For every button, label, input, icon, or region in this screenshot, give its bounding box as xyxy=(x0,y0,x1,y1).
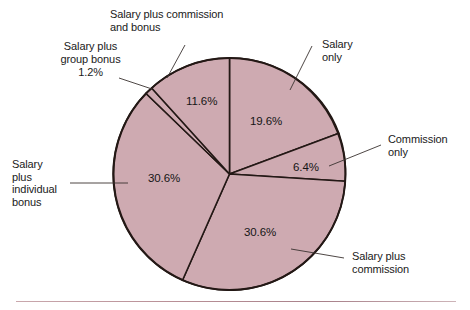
bottom-rule xyxy=(16,301,456,302)
label-salary-plus-commission: Salary plus commission xyxy=(352,250,462,275)
value-salary-plus-commission-and-bonus: 11.6% xyxy=(186,95,217,107)
label-salary-plus-group-bonus-value: 1.2% xyxy=(38,66,143,79)
label-salary-plus-group-bonus: Salary plus group bonus xyxy=(38,40,143,65)
leader-line-group-bonus xyxy=(119,78,152,89)
label-salary-plus-individual-bonus: Salary plus individual bonus xyxy=(12,158,78,208)
label-salary-only: Salary only xyxy=(322,38,412,63)
label-salary-plus-commission-and-bonus: Salary plus commission and bonus xyxy=(110,8,270,33)
value-commission-only: 6.4% xyxy=(293,161,319,173)
label-commission-only: Commission only xyxy=(388,133,470,158)
value-salary-plus-commission: 30.6% xyxy=(244,226,276,238)
value-salary-plus-individual-bonus: 30.6% xyxy=(148,172,180,184)
pie-chart-figure: Salary plus commission and bonus Salary … xyxy=(0,0,470,310)
value-salary-only: 19.6% xyxy=(250,115,282,127)
